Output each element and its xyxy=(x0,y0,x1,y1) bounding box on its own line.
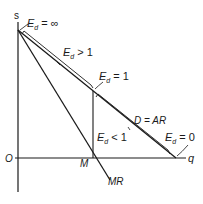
elasticity-elastic-label: Ed > 1 xyxy=(63,46,93,60)
point-m-label: M xyxy=(80,158,89,169)
elasticity-inelastic-label: Ed < 1 xyxy=(97,131,127,145)
origin-label: O xyxy=(5,153,13,164)
unit-pointer-icon xyxy=(95,82,103,89)
elasticity-diagram: s q O M MR D = AR Ed = ∞ Ed > 1 Ed = 1 E… xyxy=(0,0,203,204)
mr-label: MR xyxy=(108,176,124,187)
elasticity-infinite-label: Ed = ∞ xyxy=(27,17,59,31)
inelastic-tick-icon xyxy=(128,127,130,130)
x-axis-label: q xyxy=(188,152,195,164)
y-axis-label: s xyxy=(14,10,19,21)
elasticity-zero-label: Ed = 0 xyxy=(165,131,195,145)
elastic-range-bracket xyxy=(22,31,93,88)
zero-pointer-icon xyxy=(177,145,188,156)
demand-label: D = AR xyxy=(134,115,166,126)
elasticity-unit-label: Ed = 1 xyxy=(99,70,129,84)
